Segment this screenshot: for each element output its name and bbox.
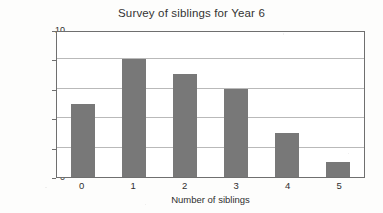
bar-slot [159,32,210,177]
x-axis-tick-label: 2 [159,180,210,191]
x-axis-title: Number of siblings [56,194,365,205]
bar [326,162,350,177]
bar-series [57,32,364,177]
x-axis-tick-label: 5 [314,180,365,191]
bar-slot [313,32,364,177]
bar [173,74,197,177]
bar [71,104,95,178]
x-axis-tick-group: 012345 [56,180,365,191]
x-axis-tick-label: 0 [56,180,107,191]
x-axis-tick-label: 3 [211,180,262,191]
bar-chart: Survey of siblings for Year 6 Number of … [0,0,383,213]
x-axis-tick-label: 1 [108,180,159,191]
plot-area [56,31,365,178]
bar [224,89,248,177]
x-axis-tick-label: 4 [262,180,313,191]
bar-slot [57,32,108,177]
bar-slot [262,32,313,177]
bar [275,133,299,177]
y-axis-tick-mark [52,178,56,179]
bar [122,59,146,177]
chart-title: Survey of siblings for Year 6 [0,7,383,19]
bar-slot [211,32,262,177]
bar-slot [108,32,159,177]
